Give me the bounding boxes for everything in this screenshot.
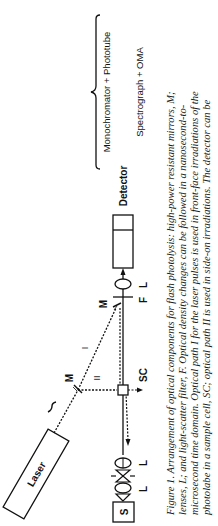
mirror-upper-label: M <box>98 300 109 308</box>
laser-box: Laser <box>3 429 69 519</box>
path-2-label: II <box>92 375 102 380</box>
source-label: S <box>119 508 130 515</box>
caption-line: Figure 1. Arrangement of optical compone… <box>165 0 177 521</box>
path-1-label: I <box>80 347 90 350</box>
pulse-symbol-icon <box>48 402 56 412</box>
detector-box <box>113 215 133 268</box>
lens-3-label: L <box>138 282 149 288</box>
detector-options-brace <box>91 15 100 169</box>
caption-line: microsecond time domain. Optical path I … <box>189 0 201 521</box>
detector-option-spectrograph: Spectrograph + OMA <box>134 47 145 137</box>
caption-line: lenses, L; and light-scatter filter, F. … <box>177 0 189 521</box>
sample-cell <box>118 385 128 395</box>
arrow-to-detector-icon <box>121 268 126 275</box>
detector-label: Detector <box>118 166 129 207</box>
mirror-lower-label: M <box>64 374 75 382</box>
sample-cell-label: SC <box>138 368 149 382</box>
lens-2-label: L <box>138 460 149 466</box>
lens-3 <box>115 279 131 289</box>
laser-beam <box>54 390 78 433</box>
caption-line: photolabe in a sample cell, SC; optical … <box>201 0 213 521</box>
figure-caption: Figure 1. Arrangement of optical compone… <box>160 0 218 526</box>
lens-1-label: L <box>138 486 149 492</box>
filter-label: F <box>138 297 149 303</box>
lens-1 <box>115 483 131 493</box>
detector-option-monochromator: Monochromator + Phototube <box>101 32 112 153</box>
